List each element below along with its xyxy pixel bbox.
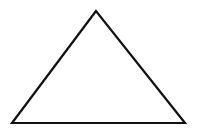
- diagram-canvas: [0, 0, 197, 133]
- triangle-shape: [12, 11, 185, 123]
- triangle-figure: [0, 0, 197, 133]
